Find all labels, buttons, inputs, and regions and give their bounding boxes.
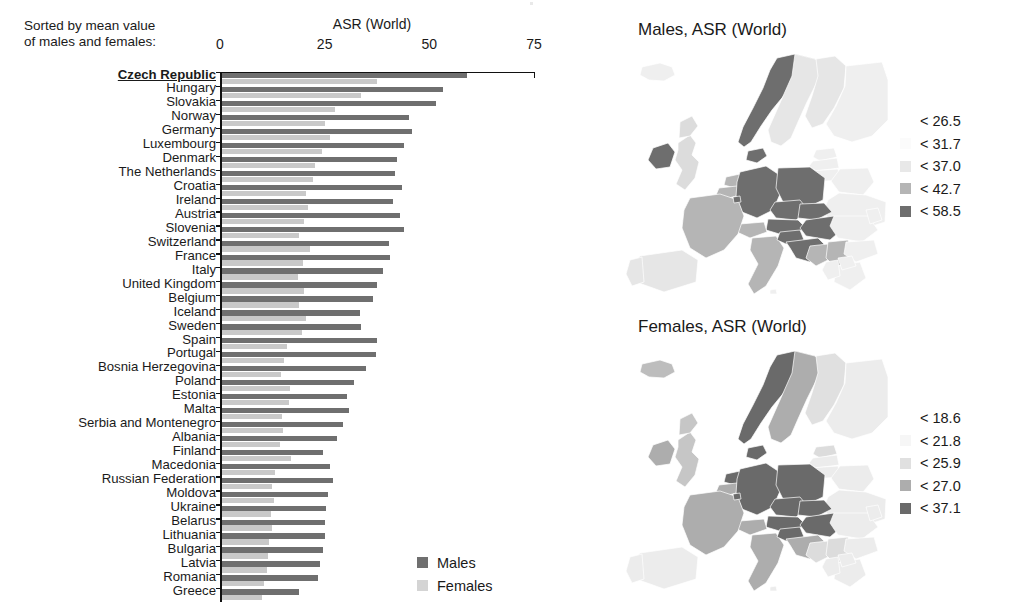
europe-map-svg [620,347,890,592]
map-legend-item: < 42.7 [900,178,961,201]
country-belarus [831,168,874,195]
bar-group [222,100,542,114]
bar-females [222,191,307,196]
x-axis-tick-labels: 0255075 [0,36,600,54]
bar-chart-legend: Males Females [417,551,493,597]
x-tick-0: 0 [200,36,240,52]
map-legend-label: < 18.6 [920,410,961,426]
category-tick [216,546,220,547]
category-label: Lithuania [162,529,216,540]
plot-area [220,72,540,602]
map-legend-swatch [900,116,911,127]
bar-group [222,198,542,212]
bar-group [222,421,542,435]
country-france [682,194,744,258]
figure-root: Sorted by mean value of males and female… [0,0,1010,610]
bar-group [222,504,542,518]
category-label: Finland [173,445,216,456]
map-legend-label: < 42.7 [920,181,961,197]
bar-group [222,463,542,477]
country-united-kingdom [675,135,699,190]
country-france [682,491,744,555]
category-label: Czech Republic [118,69,216,80]
bar-group [222,281,542,295]
category-label: Sweden [168,320,216,331]
map-legend-label: < 21.8 [920,433,961,449]
bar-group [222,156,542,170]
bar-group [222,253,542,267]
category-label: Albania [172,431,216,442]
map-legend-label: < 27.0 [920,478,961,494]
map-legend-item: < 37.1 [900,497,961,520]
map-legend-item: < 21.8 [900,430,961,453]
bar-group [222,267,542,281]
map-legend-swatch [900,480,911,491]
bar-females [222,344,287,349]
category-label: Switzerland [148,236,216,247]
bar-males [222,338,378,343]
bar-males [222,408,349,413]
bar-group [222,365,542,379]
bar-males [222,129,412,134]
map-legend-label: < 37.0 [920,158,961,174]
category-tick [216,449,220,450]
bar-males [222,199,394,204]
country-albania [822,260,840,280]
category-label: Moldova [166,487,216,498]
bar-females [222,525,272,530]
bar-females [222,511,271,516]
category-tick [216,142,220,143]
bar-males [222,157,397,162]
category-tick [216,476,220,477]
category-label: Hungary [166,82,216,93]
bar-group [222,449,542,463]
bar-males [222,115,410,120]
bar-females [222,274,298,279]
category-label: Greece [173,585,216,596]
category-label: Luxembourg [143,138,216,149]
map-legend-swatch [900,138,911,149]
category-label: Latvia [181,557,216,568]
category-tick [216,435,220,436]
bar-group [222,532,542,546]
bar-group [222,588,542,602]
category-label: Spain [182,334,216,345]
country-belarus [831,465,874,492]
bar-females [222,79,377,84]
bar-males [222,227,404,232]
europe-map-females [620,347,890,592]
category-tick [216,239,220,240]
bar-group [222,574,542,588]
bar-males [222,436,337,441]
category-tick [216,128,220,129]
bar-group [222,211,542,225]
bar-males [222,101,436,106]
category-label: Denmark [163,152,217,163]
bar-males [222,575,318,580]
bar-males [222,547,324,552]
bar-males [222,366,366,371]
bar-females [222,135,330,140]
bar-females [222,400,289,405]
bar-males [222,422,344,427]
bar-females [222,358,284,363]
category-label: Austria [175,208,216,219]
country-luxembourg [733,196,741,203]
category-tick [216,421,220,422]
bar-females [222,372,281,377]
map-legend-item: < 25.9 [900,452,961,475]
country-ireland [648,440,675,466]
category-tick [216,365,220,366]
legend-item-males: Males [417,551,493,574]
bar-males [222,589,299,594]
bar-males [222,561,321,566]
map-legend-swatch [900,503,911,514]
map-legend-item: < 31.7 [900,133,961,156]
bar-group [222,184,542,198]
category-tick [216,72,220,73]
map-legend-swatch [900,458,911,469]
bar-group [222,225,542,239]
category-tick [216,588,220,589]
bar-females [222,288,304,293]
bar-females [222,205,308,210]
